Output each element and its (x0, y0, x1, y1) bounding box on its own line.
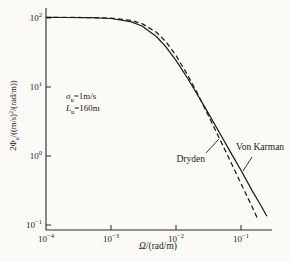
x-tick-label: 10−1 (228, 233, 254, 244)
sigma-value: =1m/s (74, 91, 97, 101)
y-tick-label: 102 (14, 12, 42, 23)
scale-length-line: Lu=160m (66, 103, 100, 115)
y-title-sub: u (14, 137, 20, 140)
y-title-rest: /(rad/m)) (8, 80, 18, 111)
plot-area (0, 0, 291, 262)
parameter-annotation: σu=1m/s Lu=160m (66, 91, 100, 115)
x-title-rest: /(rad/m) (146, 241, 177, 251)
dryden-label: Dryden (170, 154, 205, 164)
axes-frame (46, 8, 272, 230)
dryden-leader-line (206, 139, 219, 153)
x-axis-title: Ω/(rad/m) (110, 241, 206, 251)
y-tick-label: 10−1 (14, 219, 42, 230)
von-karman-curve (46, 17, 267, 216)
y-title-pre: 2Φ (8, 140, 18, 150)
sigma-line: σu=1m/s (66, 91, 100, 103)
turbulence-spectrum-chart: 10210110010−1 10−410−310−210−1 2Φu/((m/s… (0, 0, 291, 262)
x-title-symbol: Ω (139, 241, 146, 251)
dryden-curve (46, 17, 258, 218)
y-axis-title: 2Φu/((m/s)2/(rad/m)) (8, 50, 21, 182)
von-karman-leader-line (243, 157, 252, 171)
von-karman-label: Von Karman (236, 142, 284, 152)
y-title-mid: /((m/s) (8, 114, 18, 137)
x-tick-label: 10−4 (33, 233, 59, 244)
length-value: =160m (74, 103, 100, 113)
axis-ticks (46, 18, 241, 230)
